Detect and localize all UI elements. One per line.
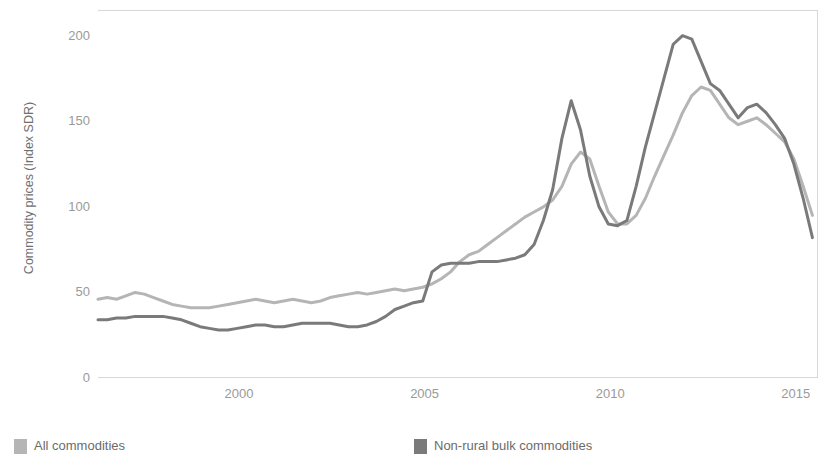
y-axis-ticks: 050100150200 (44, 0, 90, 472)
legend-swatch-icon (414, 439, 427, 454)
chart-legend: All commodities Non-rural bulk commoditi… (0, 432, 827, 462)
y-tick-label: 50 (50, 285, 90, 299)
x-tick-label: 2005 (385, 386, 465, 401)
legend-label: All commodities (34, 438, 125, 454)
y-axis-title: Commodity prices (Index SDR) (18, 4, 40, 372)
y-tick-label: 0 (50, 371, 90, 385)
y-tick-label: 100 (50, 200, 90, 214)
plot-area (98, 10, 818, 378)
x-tick-label: 2015 (756, 386, 827, 401)
commodity-prices-chart: Commodity prices (Index SDR) 05010015020… (0, 0, 827, 472)
legend-item-all-commodities[interactable]: All commodities (14, 436, 125, 456)
legend-item-non-rural-bulk-commodities[interactable]: Non-rural bulk commodities (414, 436, 592, 456)
legend-label: Non-rural bulk commodities (434, 438, 592, 454)
x-tick-label: 2010 (570, 386, 650, 401)
y-tick-label: 200 (50, 29, 90, 43)
y-tick-label: 150 (50, 114, 90, 128)
legend-swatch-icon (14, 439, 27, 454)
x-tick-label: 2000 (199, 386, 279, 401)
